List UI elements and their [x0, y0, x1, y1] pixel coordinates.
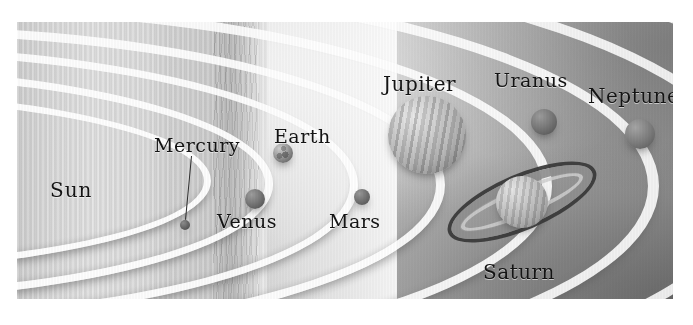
scan-striping	[17, 22, 673, 299]
solar-system-figure: SunMercuryVenusEarthMarsJupiterSaturnUra…	[0, 0, 693, 325]
illustration-plate: SunMercuryVenusEarthMarsJupiterSaturnUra…	[17, 22, 673, 299]
